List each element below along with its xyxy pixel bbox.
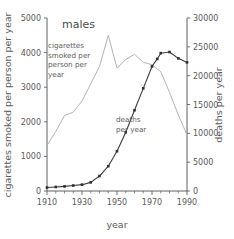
y-axis-left-tick-label: 1000 <box>21 152 41 161</box>
y-axis-left-title: cigarettes smoked per person per year <box>2 12 13 197</box>
data-point-marker <box>142 87 145 90</box>
dual-axis-line-chart: 010002000300040005000 050001000015000200… <box>0 0 234 239</box>
data-point-marker <box>177 57 180 60</box>
x-axis-tick-label: 1950 <box>107 198 127 207</box>
data-point-marker <box>156 58 159 61</box>
data-point-marker <box>81 183 84 186</box>
data-point-marker <box>46 186 49 189</box>
x-axis-title: year <box>106 219 127 230</box>
data-point-marker <box>151 65 154 68</box>
x-axis-tick-label: 1970 <box>142 198 162 207</box>
y-axis-left-tick-label: 0 <box>36 187 41 196</box>
y-axis-right-tick-label: 30000 <box>193 14 218 23</box>
x-axis-tick-label: 1990 <box>177 198 197 207</box>
data-point-marker <box>168 51 171 54</box>
data-point-marker <box>72 184 75 187</box>
data-point-marker <box>107 165 110 168</box>
y-axis-left-tick-label: 5000 <box>21 14 41 23</box>
x-axis-ticks <box>47 191 187 195</box>
cigarettes-series-label: cigarettessmoked perperson peryear <box>48 41 90 79</box>
chart-figure: 010002000300040005000 050001000015000200… <box>0 0 234 239</box>
y-axis-left-tick-label: 4000 <box>21 49 41 58</box>
x-axis-tick-label: 1930 <box>72 198 92 207</box>
data-point-marker <box>116 150 119 153</box>
data-point-marker <box>54 186 57 189</box>
x-axis-tick-labels: 19101930195019701990 <box>37 198 197 207</box>
data-point-marker <box>63 185 66 188</box>
x-axis-tick-label: 1910 <box>37 198 57 207</box>
y-axis-left-tick-label: 3000 <box>21 83 41 92</box>
data-point-marker <box>186 61 189 64</box>
data-point-marker <box>89 181 92 184</box>
y-axis-left-tick-labels: 010002000300040005000 <box>21 14 41 196</box>
y-axis-right-tick-label: 25000 <box>193 43 218 52</box>
data-point-marker <box>159 52 162 55</box>
y-axis-left-tick-label: 2000 <box>21 118 41 127</box>
y-axis-right-tick-label: 5000 <box>193 158 213 167</box>
y-axis-right-title: deaths per year <box>213 67 224 143</box>
y-axis-right-tick-label: 0 <box>193 187 198 196</box>
data-point-marker <box>98 175 101 178</box>
data-point-marker <box>133 109 136 112</box>
plot-title: males <box>62 18 95 31</box>
deaths-series-label: deathsper year <box>116 115 146 134</box>
